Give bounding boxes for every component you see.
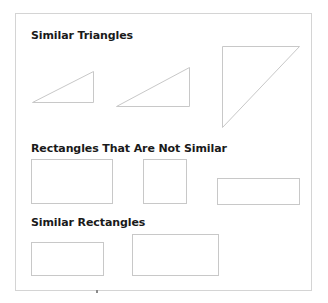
rectangle-flat bbox=[218, 179, 300, 205]
border-tick-mark bbox=[96, 290, 98, 293]
rectangle-similar-small bbox=[32, 243, 104, 276]
triangle-small bbox=[33, 72, 94, 103]
rectangle-wide bbox=[32, 160, 113, 204]
non-similar-rectangles-group bbox=[32, 160, 300, 205]
triangle-large bbox=[223, 47, 300, 128]
similar-triangles-group bbox=[33, 47, 300, 128]
rectangle-square bbox=[144, 160, 187, 204]
similar-rectangles-group bbox=[32, 235, 219, 276]
shapes-canvas bbox=[0, 0, 328, 303]
rectangle-similar-large bbox=[133, 235, 219, 276]
triangle-medium bbox=[117, 68, 190, 107]
